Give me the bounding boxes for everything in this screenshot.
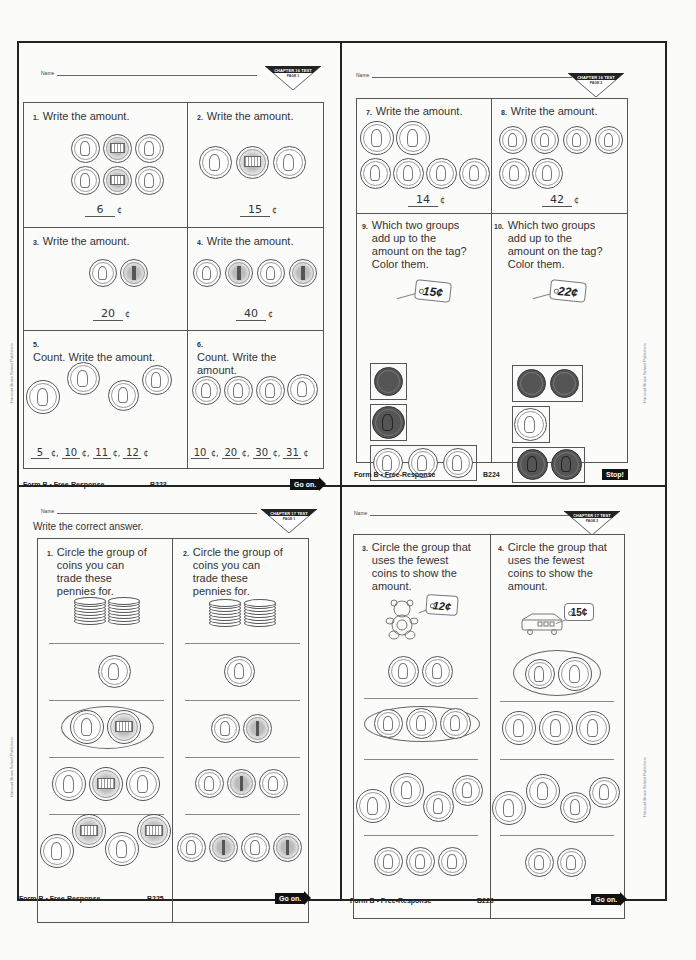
- dime-icon[interactable]: [557, 848, 586, 877]
- dime-icon[interactable]: [195, 769, 224, 798]
- nickel-icon[interactable]: [356, 789, 390, 823]
- option-divider: [185, 643, 300, 644]
- name-line[interactable]: [57, 508, 257, 514]
- chapter-badge: CHAPTER 17 TEST PAGE 2: [564, 511, 620, 535]
- answer-1[interactable]: 6¢: [85, 203, 122, 217]
- penny-icon: [142, 365, 172, 395]
- nickel-back-icon[interactable]: [137, 814, 171, 848]
- dime-back-icon[interactable]: [243, 714, 272, 743]
- dime-icon[interactable]: [259, 769, 288, 798]
- nickel-icon[interactable]: [40, 834, 74, 868]
- name-field[interactable]: Name: [41, 70, 257, 76]
- dime-icon[interactable]: [211, 714, 240, 743]
- quarter-back-icon: [517, 369, 546, 398]
- badge-title: CHAPTER 16 TEST: [265, 68, 321, 73]
- answer-8[interactable]: 42¢: [542, 193, 579, 207]
- penny-icon[interactable]: [560, 792, 591, 823]
- name-line[interactable]: [57, 70, 257, 76]
- nickel-icon[interactable]: [576, 711, 610, 745]
- answer-7[interactable]: 14¢: [408, 193, 445, 207]
- dime-back-icon[interactable]: [209, 833, 238, 862]
- penny-icon[interactable]: [422, 656, 453, 687]
- badge-title: CHAPTER 17 TEST: [564, 513, 620, 518]
- nickel-icon: [360, 121, 394, 155]
- penny-back-icon: [103, 134, 132, 163]
- nickel-icon[interactable]: [539, 711, 573, 745]
- nickel-icon[interactable]: [492, 791, 526, 825]
- nickel-back-icon[interactable]: [89, 767, 123, 801]
- dime-icon[interactable]: [406, 847, 435, 876]
- nickel-icon[interactable]: [98, 655, 131, 688]
- page-b226: Name CHAPTER 17 TEST PAGE 2 3.Circle the…: [342, 487, 665, 931]
- option-divider: [364, 759, 478, 760]
- badge-title: CHAPTER 16 TEST: [568, 75, 624, 80]
- stop-button[interactable]: Stop!: [602, 469, 628, 480]
- price-tag: 22¢: [549, 279, 587, 303]
- page-b225: Name CHAPTER 17 TEST PAGE 1 Write the co…: [19, 487, 342, 931]
- penny-icon[interactable]: [452, 775, 483, 806]
- quarter-back-icon: [374, 367, 403, 396]
- answer-5[interactable]: 5¢, 10¢, 11¢, 12¢: [31, 447, 149, 459]
- dime-icon: [224, 376, 253, 405]
- nickel-back-icon[interactable]: [72, 814, 106, 848]
- nickel-icon: [396, 121, 430, 155]
- nickel-icon[interactable]: [502, 711, 536, 745]
- nickel-back-icon[interactable]: [107, 710, 141, 744]
- name-line[interactable]: [370, 510, 570, 516]
- name-field[interactable]: Name: [41, 508, 257, 514]
- answer-3[interactable]: 20¢: [93, 307, 130, 321]
- name-field[interactable]: Name: [356, 72, 572, 78]
- nickel-icon: [372, 406, 405, 439]
- dime-icon[interactable]: [224, 656, 255, 687]
- penny-icon[interactable]: [406, 708, 437, 739]
- name-line[interactable]: [372, 72, 572, 78]
- penny-icon[interactable]: [423, 791, 454, 822]
- chapter-badge: CHAPTER 17 TEST PAGE 1: [261, 509, 317, 533]
- penny-stack-icon: [108, 597, 140, 625]
- question-4: 4.Circle the group that uses the fewest …: [498, 541, 623, 593]
- dime-back-icon[interactable]: [227, 769, 256, 798]
- go-on-button[interactable]: Go on.: [275, 893, 305, 904]
- penny-icon[interactable]: [440, 708, 471, 739]
- option-divider: [364, 698, 478, 699]
- badge-page: PAGE 2: [568, 81, 624, 85]
- name-field[interactable]: Name: [354, 510, 570, 516]
- dime-icon[interactable]: [241, 833, 270, 862]
- question-2: 2.Write the amount.: [197, 110, 327, 124]
- option-divider: [185, 700, 300, 701]
- dime-icon[interactable]: [374, 847, 403, 876]
- answer-2[interactable]: 15¢: [240, 203, 277, 217]
- nickel-icon[interactable]: [558, 657, 592, 691]
- dime-icon[interactable]: [525, 848, 554, 877]
- dime-icon[interactable]: [177, 833, 206, 862]
- badge-page: PAGE 1: [265, 74, 321, 78]
- penny-icon[interactable]: [388, 656, 419, 687]
- chapter-badge: CHAPTER 16 TEST PAGE 2: [568, 73, 622, 97]
- nickel-icon[interactable]: [390, 773, 424, 807]
- grid-col-line: [172, 538, 173, 923]
- option-divider: [185, 814, 300, 815]
- penny-stack-icon: [209, 599, 241, 627]
- nickel-icon[interactable]: [105, 832, 139, 866]
- question-6: 6.Count. Write the amount.: [197, 337, 317, 377]
- copyright-side-text: Harcourt Brace School Publishers: [9, 343, 14, 403]
- option-divider: [49, 757, 164, 758]
- answer-6[interactable]: 10¢, 20¢, 30¢, 31¢: [191, 447, 309, 459]
- question-3: 3.Circle the group that uses the fewest …: [362, 541, 487, 593]
- go-on-button[interactable]: Go on.: [591, 894, 621, 905]
- nickel-icon[interactable]: [70, 710, 104, 744]
- option-divider: [500, 759, 614, 760]
- dime-icon[interactable]: [374, 709, 403, 738]
- dime-icon[interactable]: [438, 847, 467, 876]
- dime-icon[interactable]: [525, 659, 555, 689]
- nickel-icon[interactable]: [526, 774, 560, 808]
- nickel-icon[interactable]: [126, 767, 160, 801]
- penny-icon[interactable]: [589, 777, 620, 808]
- dime-back-icon: [120, 259, 148, 287]
- dime-back-icon[interactable]: [273, 833, 302, 862]
- copyright-side-text: Harcourt Brace School Publishers: [9, 737, 14, 797]
- nickel-icon[interactable]: [52, 767, 86, 801]
- answer-4[interactable]: 40¢: [236, 307, 273, 321]
- option-divider: [49, 643, 164, 644]
- question-1: 1.Write the amount.: [33, 110, 183, 124]
